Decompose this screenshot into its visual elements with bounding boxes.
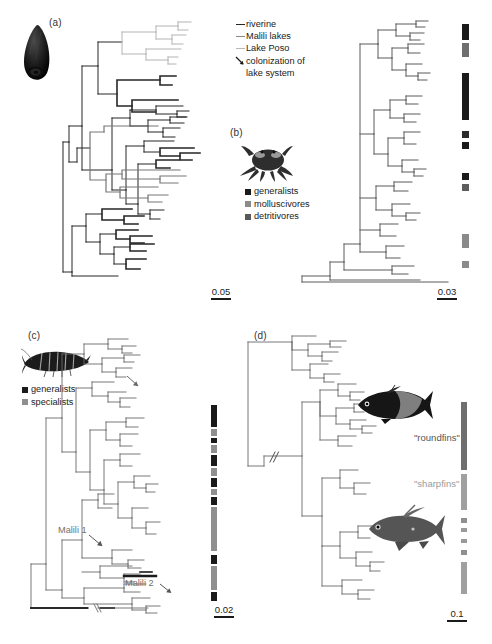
- poso-dash-icon: [234, 43, 246, 54]
- clade-bar-d: [461, 402, 467, 602]
- phylogeny-c: [28, 332, 208, 614]
- clade-seg: [461, 539, 467, 543]
- phylogeny-a: [60, 14, 250, 282]
- sharpfins-annotation: "sharpfins": [414, 478, 459, 489]
- roundfins-annotation: "roundfins": [414, 432, 460, 443]
- trait-seg: [462, 73, 469, 120]
- trait-bar-b: [462, 18, 469, 280]
- trait-bar-c: [211, 405, 217, 601]
- molluscivores-swatch-icon: [245, 201, 251, 207]
- crab-silhouette: [238, 140, 294, 182]
- legend-item-colonization-line2: lake system: [234, 68, 305, 79]
- malili-2-arrow-icon: [159, 583, 177, 597]
- colonization-arrow-c-icon: [126, 375, 144, 391]
- trait-seg: [211, 507, 217, 551]
- scale-value-a: 0.05: [204, 287, 238, 297]
- scale-bar-a: 0.05: [204, 287, 238, 300]
- malili-1-arrow-icon: [88, 534, 108, 550]
- trait-seg: [211, 438, 217, 443]
- malili-1-annotation: Malili 1: [58, 525, 87, 535]
- trait-seg: [211, 455, 217, 466]
- scale-value-c: 0.02: [207, 605, 241, 615]
- clade-seg: [461, 518, 467, 523]
- panel-label-b: (b): [230, 127, 243, 138]
- legend-label-malili-lakes: Malili lakes: [246, 31, 291, 42]
- malili-2-label: Malili 2: [125, 578, 154, 588]
- trait-seg: [211, 566, 217, 590]
- legend-label-generalists-b: generalists: [254, 186, 298, 197]
- trait-seg: [211, 592, 217, 601]
- trait-seg: [462, 184, 469, 191]
- snail-silhouette: [17, 24, 59, 82]
- malili-dash-icon: [234, 31, 246, 42]
- trait-seg: [462, 234, 469, 248]
- trait-seg: [211, 555, 217, 564]
- sharpfin-fish-silhouette: [365, 505, 447, 553]
- legend-label-colonization: colonization of: [246, 56, 305, 67]
- scale-bar-c: 0.02: [207, 605, 241, 618]
- trait-seg: [211, 497, 217, 505]
- legend-spacer: [234, 68, 246, 79]
- legend-item-malili-lakes: Malili lakes: [234, 31, 305, 42]
- legend-item-riverine: riverine: [234, 19, 305, 30]
- clade-seg: [461, 550, 467, 555]
- roundfins-label: "roundfins": [414, 432, 460, 443]
- clade-seg: [461, 528, 467, 532]
- scale-bar-d: 0.1: [440, 609, 474, 622]
- trait-seg: [462, 261, 469, 268]
- scale-value-d: 0.1: [440, 609, 474, 619]
- clade-seg-roundfins: [461, 402, 467, 470]
- roundfin-fish-silhouette: [355, 385, 435, 425]
- legend-label-riverine: riverine: [246, 19, 276, 30]
- clade-seg-sharpfins: [461, 474, 467, 510]
- trait-seg: [211, 478, 217, 487]
- trait-seg: [211, 445, 217, 453]
- trait-seg: [462, 24, 469, 40]
- colonization-arrow-icon: [234, 56, 246, 67]
- phylogeny-b: [300, 14, 450, 282]
- trait-seg: [211, 429, 217, 436]
- scale-bar-b: 0.03: [430, 287, 464, 300]
- legend-branch-colors: riverine Malili lakes Lake Poso coloniza…: [234, 19, 305, 80]
- trait-seg: [211, 489, 217, 495]
- malili-2-annotation: Malili 2: [125, 578, 154, 588]
- detritivores-swatch-icon: [245, 214, 251, 220]
- generalists-swatch-icon: [245, 189, 251, 195]
- clade-seg: [461, 562, 467, 594]
- legend-label-lake-poso: Lake Poso: [246, 43, 289, 54]
- trait-seg: [211, 468, 217, 476]
- trait-seg: [211, 405, 217, 427]
- sharpfins-label: "sharpfins": [414, 478, 459, 489]
- legend-item-lake-poso: Lake Poso: [234, 43, 305, 54]
- malili-1-label: Malili 1: [58, 525, 87, 535]
- phylogeny-d: [246, 336, 446, 608]
- riverine-dash-icon: [234, 19, 246, 30]
- legend-item-colonization: colonization of: [234, 56, 305, 67]
- legend-label-detritivores: detritivores: [254, 211, 299, 222]
- trait-seg: [462, 173, 469, 180]
- trait-seg: [462, 43, 469, 57]
- trait-seg: [462, 142, 469, 149]
- scale-value-b: 0.03: [430, 287, 464, 297]
- trait-seg: [462, 131, 469, 138]
- legend-label-lake-system: lake system: [246, 68, 295, 79]
